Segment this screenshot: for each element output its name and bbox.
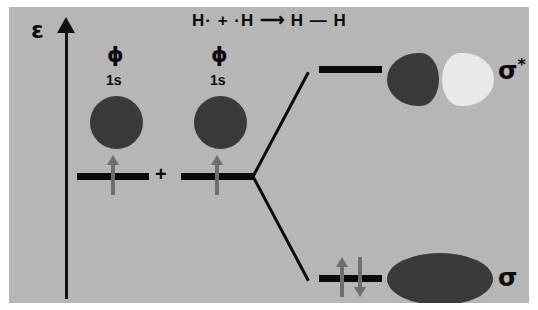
energy-axis-line bbox=[65, 29, 68, 299]
sigma-symbol: σ bbox=[498, 263, 517, 292]
phi-label-left: ϕ bbox=[107, 45, 124, 66]
electron-arrow-down-sigma bbox=[354, 257, 366, 297]
atomic-orbital-lobe-left bbox=[90, 96, 143, 149]
sigma-star-label: σ* bbox=[498, 57, 526, 83]
energy-axis-label: ε bbox=[31, 19, 44, 42]
shell-label-right: 1s bbox=[210, 73, 226, 87]
arrow-shaft bbox=[215, 163, 219, 195]
arrow-shaft bbox=[111, 163, 115, 195]
sigma-star-symbol: σ bbox=[498, 56, 517, 85]
electron-arrow-up-sigma bbox=[336, 257, 348, 297]
electron-arrow-up-left bbox=[107, 155, 119, 195]
arrow-shaft bbox=[358, 257, 362, 289]
sigma-star-lobe-dark bbox=[387, 53, 439, 106]
plus-operator: + bbox=[155, 163, 167, 186]
phi-label-right: ϕ bbox=[211, 45, 228, 66]
arrowhead-icon bbox=[354, 287, 366, 297]
electron-arrow-up-right bbox=[211, 155, 223, 195]
sigma-star-superscript: * bbox=[517, 55, 525, 74]
energy-level-sigma bbox=[319, 275, 382, 282]
arrow-shaft bbox=[340, 265, 344, 297]
mo-energy-diagram: ε H· + ·H ⟶ H — H ϕ 1s + ϕ 1s σ* σ bbox=[9, 7, 529, 303]
correlation-line-antibonding bbox=[252, 72, 310, 178]
sigma-label: σ bbox=[498, 265, 517, 290]
sigma-star-lobe-light bbox=[442, 53, 494, 106]
sigma-bonding-lobe bbox=[387, 253, 493, 303]
correlation-line-bonding bbox=[252, 176, 310, 282]
energy-level-sigma-star bbox=[319, 66, 382, 73]
shell-label-left: 1s bbox=[106, 73, 122, 87]
reaction-equation: H· + ·H ⟶ H — H bbox=[192, 10, 347, 31]
atomic-orbital-lobe-right bbox=[194, 96, 247, 149]
